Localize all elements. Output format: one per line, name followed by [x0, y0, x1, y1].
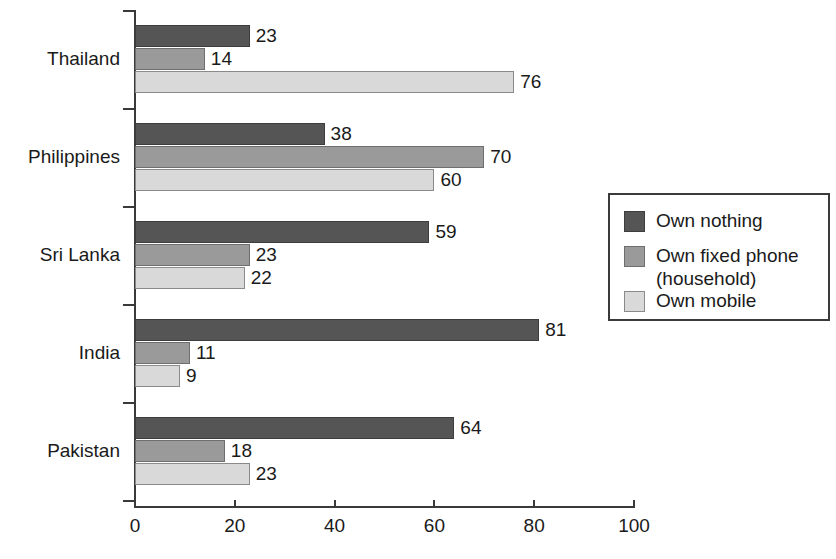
legend-swatch-icon	[624, 211, 645, 232]
bar[interactable]	[135, 71, 514, 93]
legend-item[interactable]: Own fixed phone (household)	[624, 244, 799, 290]
bar[interactable]	[135, 365, 180, 387]
bar[interactable]	[135, 244, 250, 266]
x-tick-label: 100	[618, 515, 650, 537]
bar[interactable]	[135, 319, 539, 341]
bar-value-label: 76	[520, 71, 541, 93]
bar-value-label: 64	[460, 417, 481, 439]
legend-swatch-icon	[624, 291, 645, 312]
legend-label: Own mobile	[656, 289, 756, 312]
y-category-label: Philippines	[28, 146, 120, 168]
legend-item[interactable]: Own mobile	[624, 289, 756, 312]
x-tick-label: 20	[224, 515, 245, 537]
y-category-label: India	[79, 342, 120, 364]
bar[interactable]	[135, 123, 325, 145]
y-tick-mark	[123, 402, 134, 404]
bar[interactable]	[135, 48, 205, 70]
bar-value-label: 23	[256, 244, 277, 266]
bar-value-label: 14	[211, 48, 232, 70]
legend-item[interactable]: Own nothing	[624, 209, 763, 232]
x-tick-mark	[533, 500, 535, 508]
x-tick-label: 60	[424, 515, 445, 537]
x-tick-mark	[334, 500, 336, 508]
y-category-label: Sri Lanka	[40, 244, 120, 266]
x-tick-mark	[234, 500, 236, 508]
bar[interactable]	[135, 417, 454, 439]
x-tick-mark	[134, 500, 136, 508]
y-tick-mark	[123, 10, 134, 12]
y-tick-mark	[123, 500, 134, 502]
bar[interactable]	[135, 146, 484, 168]
x-tick-mark	[633, 500, 635, 508]
bar-value-label: 23	[256, 25, 277, 47]
y-category-label: Thailand	[47, 48, 120, 70]
x-tick-label: 0	[130, 515, 141, 537]
bar[interactable]	[135, 169, 434, 191]
bar[interactable]	[135, 267, 245, 289]
bar[interactable]	[135, 463, 250, 485]
bar-value-label: 9	[186, 365, 197, 387]
chart-legend: Own nothingOwn fixed phone (household)Ow…	[608, 193, 830, 321]
bar-value-label: 38	[331, 123, 352, 145]
bar-chart: 020406080100 ThailandPhilippinesSri Lank…	[0, 0, 836, 559]
bar-value-label: 18	[231, 440, 252, 462]
bar[interactable]	[135, 342, 190, 364]
bar-value-label: 11	[196, 342, 216, 364]
y-category-label: Pakistan	[47, 440, 120, 462]
legend-label: Own fixed phone (household)	[656, 244, 799, 290]
y-tick-mark	[123, 206, 134, 208]
bar-value-label: 59	[435, 221, 456, 243]
bar[interactable]	[135, 25, 250, 47]
bar[interactable]	[135, 221, 429, 243]
x-tick-label: 80	[524, 515, 545, 537]
bar-value-label: 22	[251, 267, 272, 289]
y-tick-mark	[123, 304, 134, 306]
x-axis-line	[134, 506, 635, 508]
x-tick-label: 40	[324, 515, 345, 537]
x-tick-mark	[433, 500, 435, 508]
bar[interactable]	[135, 440, 225, 462]
legend-label: Own nothing	[656, 209, 763, 232]
bar-value-label: 81	[545, 319, 566, 341]
legend-swatch-icon	[624, 246, 645, 267]
y-tick-mark	[123, 108, 134, 110]
bar-value-label: 60	[440, 169, 461, 191]
bar-value-label: 70	[490, 146, 511, 168]
bar-value-label: 23	[256, 463, 277, 485]
